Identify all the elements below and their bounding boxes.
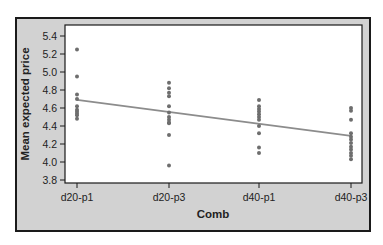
data-point xyxy=(167,94,171,98)
y-tick-label: 3.8 xyxy=(42,174,57,186)
x-axis-label: Comb xyxy=(197,208,230,220)
data-point xyxy=(75,113,79,117)
data-point xyxy=(75,104,79,108)
y-tick-label: 5.0 xyxy=(42,66,57,78)
data-point xyxy=(75,75,79,79)
data-point xyxy=(349,109,353,113)
y-tick-label: 4.2 xyxy=(42,138,57,150)
data-point xyxy=(349,131,353,135)
y-axis-label: Mean expected price xyxy=(19,47,31,160)
data-point xyxy=(349,141,353,145)
data-point xyxy=(167,111,171,115)
y-axis: 3.84.04.24.44.64.85.05.25.4 xyxy=(42,30,65,186)
data-point xyxy=(349,147,353,151)
data-point xyxy=(167,104,171,108)
data-point xyxy=(167,86,171,90)
data-point xyxy=(349,118,353,122)
data-point xyxy=(167,91,171,95)
data-point xyxy=(167,121,171,125)
data-point xyxy=(167,133,171,137)
data-point xyxy=(349,154,353,158)
scatter-chart: 3.84.04.24.44.64.85.05.25.4 d20-p1d20-p3… xyxy=(0,0,383,245)
y-tick-label: 4.6 xyxy=(42,102,57,114)
x-tick-label: d40-p1 xyxy=(243,191,276,203)
y-tick-label: 4.4 xyxy=(42,120,57,132)
y-tick-label: 5.4 xyxy=(42,30,57,42)
data-point xyxy=(257,146,261,150)
data-point xyxy=(75,93,79,97)
data-point xyxy=(349,157,353,161)
y-tick-label: 4.0 xyxy=(42,156,57,168)
data-point xyxy=(167,81,171,85)
data-point xyxy=(257,118,261,122)
y-tick-label: 5.2 xyxy=(42,48,57,60)
x-tick-label: d20-p1 xyxy=(61,191,94,203)
data-point xyxy=(167,164,171,168)
data-point xyxy=(349,138,353,142)
data-point xyxy=(75,97,79,101)
data-point xyxy=(75,117,79,121)
data-point xyxy=(75,48,79,52)
x-axis: d20-p1d20-p3d40-p1d40-p3 xyxy=(61,183,368,203)
data-point xyxy=(257,124,261,128)
y-tick-label: 4.8 xyxy=(42,84,57,96)
x-tick-label: d20-p3 xyxy=(153,191,186,203)
data-point xyxy=(257,131,261,135)
x-tick-label: d40-p3 xyxy=(335,191,368,203)
data-point xyxy=(257,151,261,155)
data-point xyxy=(257,98,261,102)
